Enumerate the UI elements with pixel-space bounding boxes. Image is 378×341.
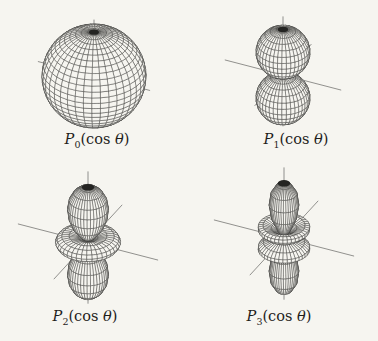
label-symbol-P: P xyxy=(53,308,63,324)
label-close-paren: ) xyxy=(112,308,118,324)
pole-cap xyxy=(278,27,288,32)
plot-label-p0: P0(cos θ) xyxy=(42,132,152,150)
label-cos-open: (cos xyxy=(68,308,103,324)
label-symbol-P: P xyxy=(247,308,257,324)
surface-plot-p2 xyxy=(18,171,158,303)
plot-label-p3: P3(cos θ) xyxy=(224,309,334,327)
label-symbol-P: P xyxy=(264,131,274,147)
figure-canvas xyxy=(0,0,378,341)
surface-plot-p1 xyxy=(225,16,341,126)
legendre-polynomial-figure: P0(cos θ) P1(cos θ) P2(cos θ) P3(cos θ) xyxy=(0,0,378,341)
label-cos-open: (cos xyxy=(279,131,314,147)
label-theta: θ xyxy=(314,131,323,147)
label-symbol-P: P xyxy=(65,131,75,147)
surface-plot-p0 xyxy=(38,20,150,128)
label-close-paren: ) xyxy=(306,308,312,324)
label-theta: θ xyxy=(103,308,112,324)
label-close-paren: ) xyxy=(124,131,130,147)
plot-label-p2: P2(cos θ) xyxy=(30,309,140,327)
plot-label-p1: P1(cos θ) xyxy=(241,132,351,150)
pole-cap xyxy=(89,30,99,35)
label-cos-open: (cos xyxy=(262,308,297,324)
surface-plot-p3 xyxy=(214,167,354,299)
pole-cap xyxy=(278,180,290,187)
pole-cap xyxy=(82,184,94,191)
label-cos-open: (cos xyxy=(80,131,115,147)
label-theta: θ xyxy=(115,131,124,147)
label-theta: θ xyxy=(297,308,306,324)
label-close-paren: ) xyxy=(323,131,329,147)
